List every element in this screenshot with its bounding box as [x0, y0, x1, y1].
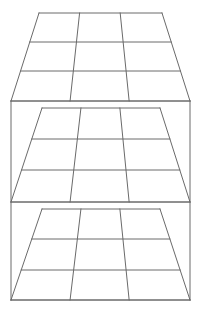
figure-root: [0, 0, 204, 313]
canvas-background: [0, 0, 204, 313]
perspective-grid-drawing: [0, 0, 204, 313]
